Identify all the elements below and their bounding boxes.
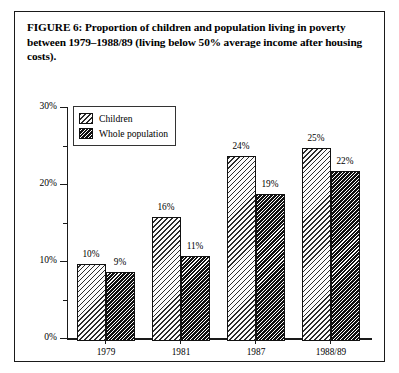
bar-label-children-1988-89: 25%: [296, 133, 336, 143]
bar-label-children-1987: 24%: [221, 141, 261, 151]
bar-children-1979: [77, 264, 106, 341]
y-tick-label-20: 20%: [27, 179, 57, 189]
x-axis-label-1988-89: 1988/89: [301, 347, 361, 357]
legend-label-whole-population: Whole population: [99, 128, 168, 139]
bar-label-children-1981: 16%: [146, 202, 186, 212]
x-tick-1979: [105, 339, 106, 344]
chart-legend: Children Whole population: [73, 106, 176, 146]
x-axis-label-1979: 1979: [76, 347, 136, 357]
bar-children-1981: [152, 217, 181, 341]
legend-label-children: Children: [99, 113, 133, 124]
y-tick-label-0: 0%: [27, 333, 57, 343]
bar-label-whole-1987: 19%: [250, 179, 290, 189]
figure-caption: FIGURE 6: Proportion of children and pop…: [27, 20, 367, 64]
x-tick-1981: [180, 339, 181, 344]
bar-children-1988-89: [302, 148, 331, 341]
chart-plot-area: 30% 20% 10% 0% 10% 9% 1979 16% 11% 1981 …: [53, 96, 373, 341]
y-tick-minor-5: [63, 300, 68, 301]
y-tick-10: [60, 261, 68, 262]
bar-whole-1979: [106, 272, 135, 341]
y-tick-minor-25: [63, 146, 68, 147]
legend-item-children: Children: [79, 111, 168, 126]
bar-label-whole-1988-89: 22%: [325, 156, 365, 166]
y-tick-0: [60, 338, 68, 339]
y-tick-30: [60, 107, 68, 108]
legend-swatch-children-icon: [79, 113, 93, 124]
bar-whole-1987: [256, 194, 285, 341]
bar-whole-1988-89: [331, 171, 360, 341]
y-tick-20: [60, 184, 68, 185]
y-tick-label-30: 30%: [27, 102, 57, 112]
bar-label-whole-1981: 11%: [175, 241, 215, 251]
legend-swatch-whole-population-icon: [79, 128, 93, 139]
bar-label-whole-1979: 9%: [100, 257, 140, 267]
x-axis-label-1981: 1981: [151, 347, 211, 357]
x-tick-1987: [255, 339, 256, 344]
legend-item-whole-population: Whole population: [79, 126, 168, 141]
x-tick-1988-89: [330, 339, 331, 344]
x-axis-label-1987: 1987: [226, 347, 286, 357]
y-tick-minor-15: [63, 223, 68, 224]
y-tick-label-10: 10%: [27, 256, 57, 266]
figure-frame: FIGURE 6: Proportion of children and pop…: [14, 11, 385, 362]
bar-whole-1981: [181, 256, 210, 341]
